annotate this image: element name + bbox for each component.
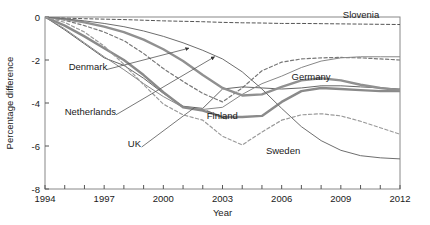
y-tick-label: -4 — [32, 98, 40, 109]
series-group — [45, 17, 400, 159]
x-tick-label: 2000 — [153, 193, 174, 204]
y-tick-label: 0 — [35, 12, 40, 23]
y-tick-label: -6 — [32, 141, 40, 152]
series-label-sweden: Sweden — [266, 145, 300, 156]
x-tick-label: 2012 — [389, 193, 410, 204]
series-label-denmark: Denmark — [69, 61, 108, 72]
chart-figure: 19941997200020032006200920120-2-4-6-8Yea… — [0, 0, 430, 225]
x-tick-label: 1994 — [34, 193, 55, 204]
x-axis-label: Year — [213, 207, 232, 218]
x-tick-label: 2006 — [271, 193, 292, 204]
line-chart: 19941997200020032006200920120-2-4-6-8Yea… — [0, 0, 430, 225]
series-label-netherlands: Netherlands — [65, 106, 116, 117]
series-label-germany: Germany — [292, 71, 331, 82]
y-axis-label: Percentage difference — [4, 57, 15, 150]
x-tick-label: 2009 — [330, 193, 351, 204]
y-tick-label: -2 — [32, 55, 40, 66]
series-label-uk: UK — [128, 138, 142, 149]
series-line-germany — [45, 17, 400, 95]
x-tick-label: 1997 — [94, 193, 115, 204]
plot-frame — [45, 17, 400, 189]
x-tick-label: 2003 — [212, 193, 233, 204]
y-tick-label: -8 — [32, 184, 40, 195]
series-label-slovenia: Slovenia — [343, 9, 380, 20]
leader-line-uk — [142, 107, 195, 147]
series-label-finland: Finland — [207, 110, 238, 121]
